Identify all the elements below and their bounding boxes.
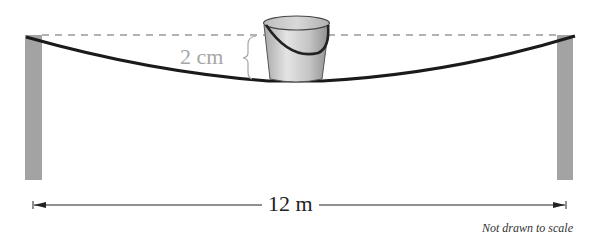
rope-sag-diagram: 2 cm 12 m Not drawn to scale	[0, 0, 590, 236]
scale-note: Not drawn to scale	[482, 221, 573, 236]
right-post	[557, 35, 573, 180]
sag-label: 2 cm	[180, 44, 223, 70]
bucket	[264, 16, 330, 82]
sag-brace	[243, 36, 256, 79]
span-label: 12 m	[262, 191, 319, 217]
left-post	[25, 35, 42, 180]
